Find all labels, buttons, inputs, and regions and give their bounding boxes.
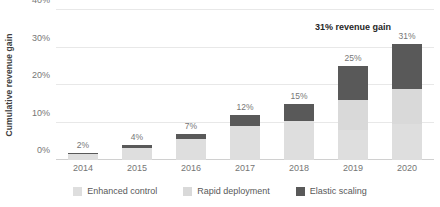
x-axis-tick-label: 2020 [380,163,434,179]
bar-total-label: 15% [290,91,307,101]
annotation-callout: 31% revenue gain [315,22,391,32]
bar-stack[interactable] [338,66,368,160]
bar-slot: 25% [326,10,380,160]
bar-stack[interactable] [392,44,422,160]
x-axis-tick-label: 2014 [56,163,110,179]
bar-slot: 12% [218,10,272,160]
legend-item[interactable]: Rapid deployment [183,186,270,196]
bar-total-label: 25% [344,53,361,63]
bar-stack[interactable] [284,104,314,160]
y-axis-tick-label: 0% [37,145,50,155]
bar-segment-enhanced-control[interactable] [176,139,206,160]
bar-segment-enhanced-control[interactable] [392,124,422,160]
bar-total-label: 2% [77,140,89,150]
legend-label: Rapid deployment [197,186,270,196]
x-axis-labels: 2014201520162017201820192020 [56,163,434,179]
legend-item[interactable]: Elastic scaling [296,186,367,196]
bar-slot: 2% [56,10,110,160]
bar-total-label: 12% [236,102,253,112]
bar-segment-enhanced-control[interactable] [284,121,314,160]
x-axis-tick-label: 2015 [110,163,164,179]
bar-segment-enhanced-control[interactable] [230,126,260,160]
legend-swatch [183,187,192,196]
x-axis-tick-label: 2018 [272,163,326,179]
bar-stack[interactable] [68,153,98,161]
bar-total-label: 4% [131,132,143,142]
x-axis-tick-label: 2016 [164,163,218,179]
y-axis-title-text: Cumulative revenue gain [4,34,14,137]
legend-label: Enhanced control [87,186,157,196]
bar-slot: 31% [380,10,434,160]
bar-stack[interactable] [122,145,152,160]
bar-segment-enhanced-control[interactable] [122,148,152,160]
bar-segment-elastic-scaling[interactable] [392,44,422,89]
x-axis-tick-label: 2017 [218,163,272,179]
y-axis-tick-label: 20% [32,70,50,80]
bar-slot: 15% [272,10,326,160]
legend-swatch [73,187,82,196]
legend-label: Elastic scaling [310,186,367,196]
bar-segment-enhanced-control[interactable] [68,154,98,160]
bar-total-label: 31% [398,31,415,41]
y-axis-tick-label: 10% [32,108,50,118]
bar-segment-elastic-scaling[interactable] [338,66,368,100]
legend-item[interactable]: Enhanced control [73,186,157,196]
plot-area: 0%10%20%30%40% 2%4%7%12%15%25%31% [56,10,434,160]
bar-segment-elastic-scaling[interactable] [284,104,314,121]
bar-stack[interactable] [230,115,260,160]
legend-swatch [296,187,305,196]
bar-slot: 4% [110,10,164,160]
bar-segment-elastic-scaling[interactable] [230,115,260,126]
bar-segment-rapid-deployment[interactable] [392,89,422,125]
y-axis-title: Cumulative revenue gain [2,0,16,170]
y-axis-tick-label: 30% [32,33,50,43]
x-axis-tick-label: 2019 [326,163,380,179]
y-axis-tick-label: 40% [32,0,50,5]
bar-group: 2%4%7%12%15%25%31% [56,10,434,160]
chart-legend: Enhanced controlRapid deploymentElastic … [0,186,440,196]
bar-slot: 7% [164,10,218,160]
bar-segment-rapid-deployment[interactable] [338,100,368,130]
stacked-column-chart: Cumulative revenue gain 0%10%20%30%40% 2… [0,0,440,207]
bar-total-label: 7% [185,121,197,131]
bar-stack[interactable] [176,134,206,160]
bar-segment-enhanced-control[interactable] [338,130,368,160]
